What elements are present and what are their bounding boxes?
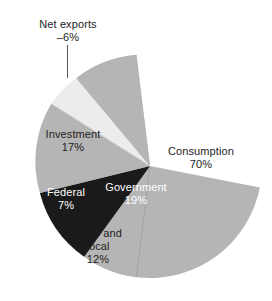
pie-label-government-value: 19% [96, 194, 176, 207]
pie-label-federal: Federal 7% [38, 186, 94, 212]
pie-label-consumption-value: 70% [155, 158, 247, 171]
pie-label-net-exports: Net exports –6% [14, 18, 122, 44]
pie-label-state-and-local-line1: State and [62, 227, 134, 240]
pie-label-state-and-local-line2: local [62, 240, 134, 253]
pie-label-net-exports-value: –6% [14, 31, 122, 44]
pie-label-consumption: Consumption 70% [155, 145, 247, 171]
pie-label-government-name: Government [96, 181, 176, 194]
pie-label-federal-value: 7% [38, 199, 94, 212]
pie-label-federal-name: Federal [38, 186, 94, 199]
pie-label-investment-value: 17% [31, 141, 115, 154]
pie-label-state-and-local-value: 12% [62, 253, 134, 266]
net-exports-leader-line [67, 45, 68, 78]
pie-label-investment-name: Investment [31, 128, 115, 141]
pie-chart-figure: Net exports –6% Investment 17% Consumpti… [0, 0, 272, 301]
pie-label-state-and-local: State and local 12% [62, 227, 134, 266]
pie-label-net-exports-name: Net exports [14, 18, 122, 31]
pie-label-consumption-name: Consumption [155, 145, 247, 158]
pie-label-government: Government 19% [96, 181, 176, 207]
pie-label-investment: Investment 17% [31, 128, 115, 154]
